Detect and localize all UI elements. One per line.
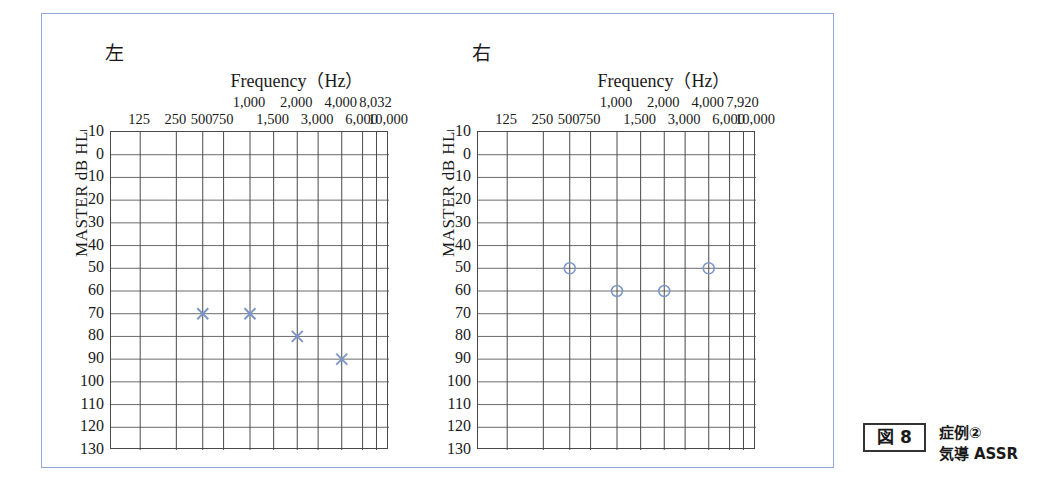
- x-tick-label: 7,920: [726, 95, 759, 110]
- caption-line-2: 気導 ASSR: [939, 444, 1018, 465]
- y-tick-label: 90: [58, 350, 104, 366]
- figure-caption: 図 8 症例② 気導 ASSR: [863, 423, 1018, 466]
- y-tick-label: 60: [58, 282, 104, 298]
- y-tick-label: 130: [425, 441, 471, 457]
- plot-area-left: [110, 131, 388, 449]
- x-tick-label: 125: [495, 112, 517, 127]
- y-tick-label: 10: [425, 168, 471, 184]
- x-tick-label: 2,000: [280, 95, 313, 110]
- x-tick-label: 1,500: [623, 112, 656, 127]
- x-axis-title-left: Frequency（Hz）: [182, 66, 412, 92]
- ear-label-left: 左: [105, 38, 124, 65]
- x-tick-label: 4,000: [691, 95, 724, 110]
- y-tick-label: 90: [425, 350, 471, 366]
- y-tick-label: 120: [58, 418, 104, 434]
- y-tick-label: 30: [58, 214, 104, 230]
- x-tick-label: 1,000: [233, 95, 266, 110]
- x-tick-label: 750: [579, 112, 601, 127]
- y-tick-label: 130: [58, 441, 104, 457]
- x-tick-label: 1,500: [256, 112, 289, 127]
- x-tick-label: 500: [191, 112, 213, 127]
- y-tick-label: 50: [425, 259, 471, 275]
- y-tick-label: 40: [58, 237, 104, 253]
- figure-number-box: 図 8: [863, 423, 926, 452]
- y-tick-label: −10: [58, 123, 104, 139]
- y-tick-label: 50: [58, 259, 104, 275]
- y-tick-label: 0: [58, 146, 104, 162]
- plot-area-right: [477, 131, 755, 449]
- y-tick-label: 10: [58, 168, 104, 184]
- x-tick-label: 500: [558, 112, 580, 127]
- y-tick-label: 20: [425, 191, 471, 207]
- x-tick-label: 750: [212, 112, 234, 127]
- figure-frame: 左 Frequency（Hz） MASTER dB HL 12525050075…: [41, 13, 834, 468]
- y-tick-label: 110: [425, 396, 471, 412]
- y-tick-label: 100: [425, 373, 471, 389]
- y-tick-label: 30: [425, 214, 471, 230]
- x-tick-label: 1,000: [600, 95, 633, 110]
- x-tick-label: 3,000: [301, 112, 334, 127]
- y-tick-label: 110: [58, 396, 104, 412]
- y-tick-label: −10: [425, 123, 471, 139]
- y-tick-label: 40: [425, 237, 471, 253]
- audiogram-panel-left: 左 Frequency（Hz） MASTER dB HL 12525050075…: [42, 14, 438, 469]
- x-tick-label: 125: [128, 112, 150, 127]
- y-tick-label: 100: [58, 373, 104, 389]
- x-tick-label: 8,032: [359, 95, 392, 110]
- y-tick-label: 60: [425, 282, 471, 298]
- y-tick-label: 80: [425, 327, 471, 343]
- y-tick-label: 0: [425, 146, 471, 162]
- audiogram-panel-right: 右 Frequency（Hz） MASTER dB HL 12525050075…: [409, 14, 805, 469]
- plot-grid: [478, 132, 756, 450]
- y-tick-label: 70: [58, 305, 104, 321]
- x-tick-label: 250: [531, 112, 553, 127]
- x-tick-label: 4,000: [324, 95, 357, 110]
- caption-line-1: 症例②: [939, 423, 1018, 444]
- y-tick-label: 80: [58, 327, 104, 343]
- x-axis-title-right: Frequency（Hz）: [549, 66, 779, 92]
- x-tick-label: 250: [164, 112, 186, 127]
- y-tick-label: 20: [58, 191, 104, 207]
- plot-grid: [111, 132, 389, 450]
- x-tick-label: 3,000: [668, 112, 701, 127]
- y-tick-label: 70: [425, 305, 471, 321]
- x-tick-label: 2,000: [647, 95, 680, 110]
- ear-label-right: 右: [472, 38, 491, 65]
- figure-caption-text: 症例② 気導 ASSR: [939, 423, 1018, 466]
- x-tick-label: 10,000: [368, 112, 408, 127]
- y-tick-label: 120: [425, 418, 471, 434]
- x-tick-label: 10,000: [735, 112, 775, 127]
